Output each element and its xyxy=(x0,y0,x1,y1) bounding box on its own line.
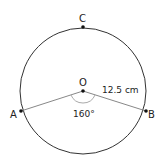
diagram-canvas: C O A B 12.5 cm 160° xyxy=(0,0,165,165)
angle-arc xyxy=(71,95,95,103)
circle-diagram: C O A B 12.5 cm 160° xyxy=(0,0,165,165)
radius-OA xyxy=(21,91,83,111)
label-A: A xyxy=(10,109,17,120)
angle-label: 160° xyxy=(73,109,95,119)
label-O: O xyxy=(79,77,87,88)
point-O xyxy=(81,89,85,93)
label-C: C xyxy=(79,13,86,24)
point-A xyxy=(19,109,23,113)
label-B: B xyxy=(148,109,155,120)
point-C xyxy=(81,25,85,29)
radius-label: 12.5 cm xyxy=(102,85,139,95)
